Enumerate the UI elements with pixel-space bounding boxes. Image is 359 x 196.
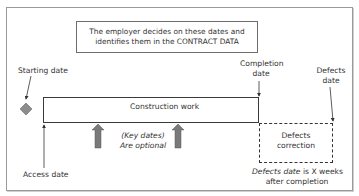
key-date-arrow-icon-1 <box>92 124 104 148</box>
diagram-connectors <box>0 0 359 196</box>
key-date-arrow-icon-2 <box>172 124 184 148</box>
starting-date-diamond-icon <box>20 103 32 115</box>
starting-date-arrow <box>26 76 31 99</box>
defects-date-arrow <box>330 87 333 121</box>
